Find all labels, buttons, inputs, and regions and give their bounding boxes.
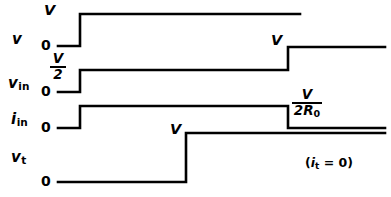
row-label-v-in: vin [8,76,29,92]
row-label-v-in-subscript: in [18,80,29,92]
trace-i-in [58,106,385,128]
zero-label-v-in: 0 [41,84,51,98]
row-label-v-t: vt [11,150,26,166]
amplitude-label-v-in-full: V [271,33,282,48]
trace-v-in [58,47,385,92]
amplitude-label-v-t: V [170,122,181,137]
row-label-v: v [12,32,22,47]
note-close-paren: ) [347,155,353,170]
zero-label-i-in: 0 [41,120,51,134]
fraction-numerator: V [292,88,322,102]
amplitude-label-i-in: V 2R0 [292,88,322,119]
fraction-numerator: V [50,52,66,66]
row-label-i-in-subscript: in [17,116,28,128]
note-it-equals-zero: (it = 0) [305,157,353,171]
trace-v [58,14,300,46]
note-equation: = 0 [319,155,347,170]
amplitude-label-v-in-half: V 2 [50,52,66,82]
zero-label-v-t: 0 [41,174,51,188]
r-zero-subscript: 0 [314,109,321,120]
row-label-v-t-subscript: t [21,154,26,166]
fraction-denominator: 2 [50,68,66,82]
waveform-figure: v V 0 vin V 2 0 V iin 0 V 2R0 vt V 0 (it… [0,0,391,197]
fraction-denominator: 2R0 [292,104,322,119]
zero-label-v: 0 [41,38,51,52]
row-label-i-in: iin [11,112,28,128]
amplitude-label-v-high: V [44,3,55,18]
